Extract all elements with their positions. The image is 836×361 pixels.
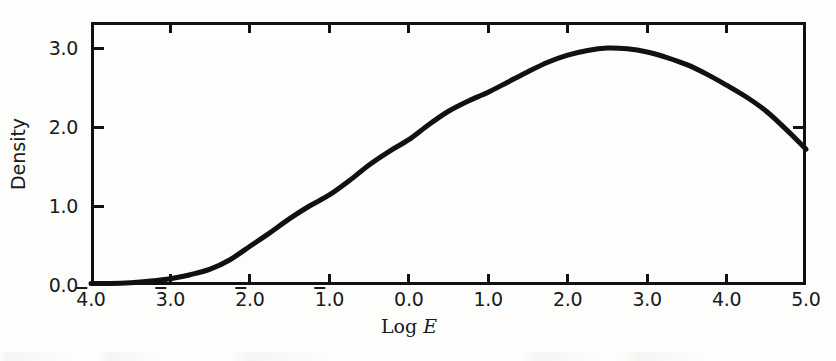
x-tick-label: 3.0	[632, 288, 661, 310]
y-tick-label: 1.0	[49, 195, 78, 217]
x-axis-title-symbol: E	[423, 315, 437, 337]
x-tick-label: 4.0	[76, 288, 105, 310]
x-axis-title-prefix: Log	[381, 315, 417, 337]
x-tick-label: 5.0	[791, 288, 820, 310]
negative-overbar-digit: 1	[315, 288, 327, 310]
x-tick-label: 0.0	[394, 288, 423, 310]
y-tick-label: 2.0	[49, 116, 78, 138]
x-tick-label: 4.0	[712, 288, 741, 310]
y-tick-label: 0.0	[49, 274, 78, 296]
x-tick-label: 1.0	[315, 288, 344, 310]
x-tick-label: 3.0	[156, 288, 185, 310]
y-tick-label: 3.0	[49, 37, 78, 59]
negative-overbar-digit: 4	[76, 288, 88, 310]
figure-characteristic-curve: 4.03.02.01.00.01.02.03.04.05.0 0.01.02.0…	[0, 0, 836, 361]
density-curve-path	[91, 48, 806, 283]
x-tick-label: 1.0	[474, 288, 503, 310]
negative-overbar-digit: 2	[235, 288, 247, 310]
negative-overbar-digit: 3	[156, 288, 168, 310]
x-axis-title: Log E	[381, 315, 437, 337]
y-axis-title: Density	[7, 118, 29, 190]
scan-artifact	[0, 352, 836, 361]
density-curve	[91, 22, 806, 285]
x-tick-label: 2.0	[235, 288, 264, 310]
x-tick-label: 2.0	[553, 288, 582, 310]
